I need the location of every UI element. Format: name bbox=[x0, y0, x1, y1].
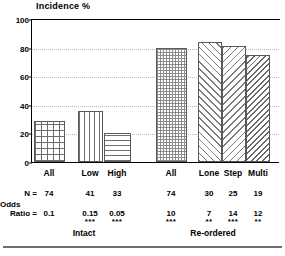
n-value-intact-low: 41 bbox=[86, 189, 95, 198]
xaxis-label-intact-high: High bbox=[108, 168, 127, 178]
ytick-label-40: 40 bbox=[20, 101, 29, 110]
footer-divider bbox=[3, 246, 282, 248]
ytick-mark-0 bbox=[29, 163, 32, 164]
ytick-mark-60 bbox=[29, 77, 32, 78]
row-label-n: N = bbox=[0, 189, 37, 198]
bar-intact-high bbox=[104, 133, 131, 162]
chart-figure: Incidence % 100 80 60 40 20 0 All Low Hi… bbox=[0, 0, 285, 256]
bar-intact-all bbox=[34, 121, 65, 162]
xaxis-label-reordered-lone: Lone bbox=[199, 168, 219, 178]
n-value-reordered-lone: 30 bbox=[205, 189, 214, 198]
bar-reordered-step bbox=[222, 46, 246, 162]
n-value-reordered-all: 74 bbox=[167, 189, 176, 198]
ytick-label-20: 20 bbox=[20, 130, 29, 139]
bar-reordered-lone bbox=[198, 42, 222, 162]
ytick-label-80: 80 bbox=[20, 44, 29, 53]
ytick-mark-80 bbox=[29, 48, 32, 49]
ytick-label-0: 0 bbox=[25, 159, 29, 168]
n-value-reordered-step: 25 bbox=[229, 189, 238, 198]
ytick-label-100: 100 bbox=[16, 16, 29, 25]
significance-reordered-multi: ** bbox=[254, 217, 261, 226]
bar-reordered-multi bbox=[246, 55, 270, 162]
bar-reordered-all bbox=[156, 48, 187, 162]
bar-intact-low bbox=[78, 111, 103, 162]
ytick-label-60: 60 bbox=[20, 73, 29, 82]
ytick-mark-100 bbox=[29, 20, 32, 21]
group-label-reordered: Re-ordered bbox=[190, 228, 235, 238]
n-value-intact-all: 74 bbox=[45, 189, 54, 198]
significance-intact-low: *** bbox=[85, 217, 96, 226]
ytick-mark-20 bbox=[29, 134, 32, 135]
xaxis-label-intact-low: Low bbox=[82, 168, 99, 178]
significance-intact-high: *** bbox=[112, 217, 123, 226]
xaxis-label-intact-all: All bbox=[44, 168, 55, 178]
group-label-intact: Intact bbox=[73, 228, 96, 238]
ytick-mark-40 bbox=[29, 105, 32, 106]
xaxis-label-reordered-step: Step bbox=[224, 168, 242, 178]
xaxis-label-reordered-multi: Multi bbox=[248, 168, 268, 178]
xaxis-label-reordered-all: All bbox=[166, 168, 177, 178]
n-value-reordered-multi: 19 bbox=[254, 189, 263, 198]
row-label-ratio: Ratio = bbox=[0, 209, 37, 218]
significance-reordered-all: *** bbox=[166, 217, 177, 226]
chart-title: Incidence % bbox=[36, 1, 90, 11]
significance-reordered-step: *** bbox=[228, 217, 239, 226]
significance-reordered-lone: ** bbox=[205, 217, 212, 226]
row-label-odds: Odds bbox=[0, 200, 37, 209]
n-value-intact-high: 33 bbox=[113, 189, 122, 198]
odds-value-intact-all: 0.1 bbox=[43, 209, 54, 218]
plot-area: 100 80 60 40 20 0 bbox=[31, 20, 279, 163]
